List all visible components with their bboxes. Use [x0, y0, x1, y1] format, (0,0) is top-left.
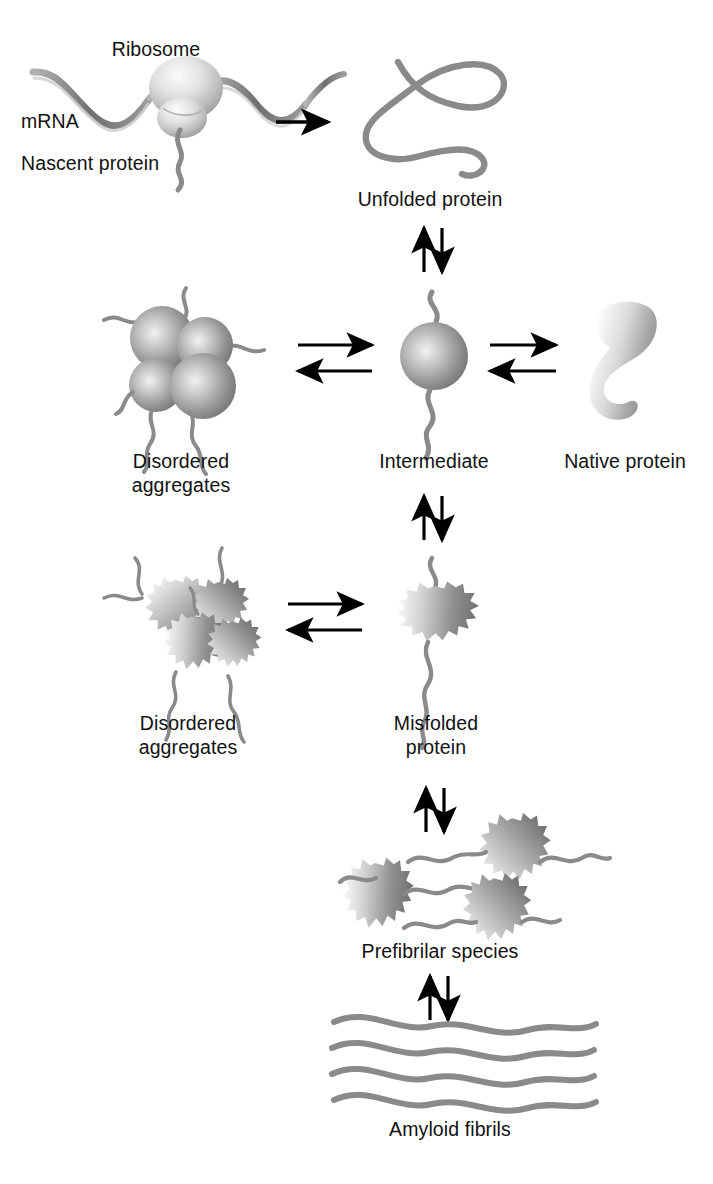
amyloid-fibrils-graphic [332, 1017, 596, 1111]
arrow-intermediate-to-misfolded [424, 496, 442, 540]
label-misfolded-protein-line2: protein [406, 736, 466, 759]
native-protein-graphic [590, 302, 657, 420]
label-disordered-aggregates-top-line1: Disordered [133, 450, 229, 473]
label-mrna: mRNA [21, 110, 79, 133]
diagram-graphics [0, 0, 713, 1184]
nascent-protein-chain [177, 130, 181, 190]
label-disordered-aggregates-bottom-line1: Disordered [140, 712, 236, 735]
arrow-intermediate-to-native [490, 345, 556, 371]
label-native-protein: Native protein [564, 450, 686, 473]
label-disordered-aggregates-top-line2: aggregates [132, 474, 231, 497]
label-amyloid-fibrils: Amyloid fibrils [389, 1118, 511, 1141]
unfolded-protein-chain [366, 62, 504, 176]
arrow-misfolded-to-prefibrilar [426, 788, 444, 832]
arrow-aggregates2-to-misfolded [288, 604, 362, 630]
label-misfolded-protein-line1: Misfolded [394, 712, 478, 735]
arrow-aggregates-to-intermediate [298, 345, 372, 371]
prefibrilar-species-graphic [340, 813, 610, 941]
arrow-prefibrilar-to-amyloid [430, 976, 448, 1020]
intermediate-graphic [400, 292, 468, 458]
disordered-aggregates-top-graphic [104, 288, 264, 474]
label-ribosome: Ribosome [112, 38, 201, 61]
label-intermediate: Intermediate [379, 450, 489, 473]
label-nascent-protein: Nascent protein [21, 152, 159, 175]
ribosome-body [149, 56, 223, 138]
arrow-unfolded-to-intermediate [424, 228, 442, 272]
label-disordered-aggregates-bottom-line2: aggregates [139, 736, 238, 759]
label-prefibrilar-species: Prefibrilar species [362, 940, 519, 963]
diagram-canvas: Ribosome mRNA Nascent protein Unfolded p… [0, 0, 713, 1184]
label-unfolded-protein: Unfolded protein [358, 188, 503, 211]
